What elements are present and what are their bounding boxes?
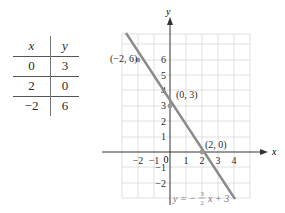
y-axis-arrow-icon (167, 17, 173, 25)
point-marker (168, 104, 173, 109)
x-tick-label: 4 (232, 155, 237, 166)
equation-rhs: x + 3 (207, 193, 229, 204)
graph-line (126, 33, 235, 199)
x-tick-label: −2 (133, 155, 144, 166)
x-tick-label: 1 (184, 155, 189, 166)
y-tick-label: 6 (161, 54, 166, 65)
y-axis-label: y (165, 6, 171, 17)
equation-numerator: 3 (200, 190, 203, 197)
equation-denominator: 2 (200, 199, 203, 206)
x-axis-arrow-icon (260, 149, 268, 155)
y-tick-label: −2 (155, 178, 166, 189)
y-tick-label: 3 (161, 100, 166, 111)
point-label: (−2, 6) (110, 53, 137, 65)
y-tick-label: −1 (155, 162, 166, 173)
point-label: (2, 0) (205, 139, 227, 151)
axes (102, 22, 263, 205)
y-tick-label: 1 (161, 131, 166, 142)
grid (122, 34, 250, 198)
equation-lhs: y = − (172, 193, 196, 204)
coordinate-graph: x y −2 −1 1 2 3 4 0 −2 −1 1 2 3 4 5 6 (−… (0, 0, 285, 213)
x-tick-label: 3 (216, 155, 221, 166)
point-label: (0, 3) (176, 89, 198, 101)
x-axis-label: x (271, 146, 277, 157)
y-tick-label: 2 (161, 116, 166, 127)
equation-label: y = − 3 2 x + 3 (172, 190, 229, 206)
y-tick-label: 5 (161, 70, 166, 81)
point-marker (200, 150, 205, 155)
x-tick-label: 2 (200, 155, 205, 166)
